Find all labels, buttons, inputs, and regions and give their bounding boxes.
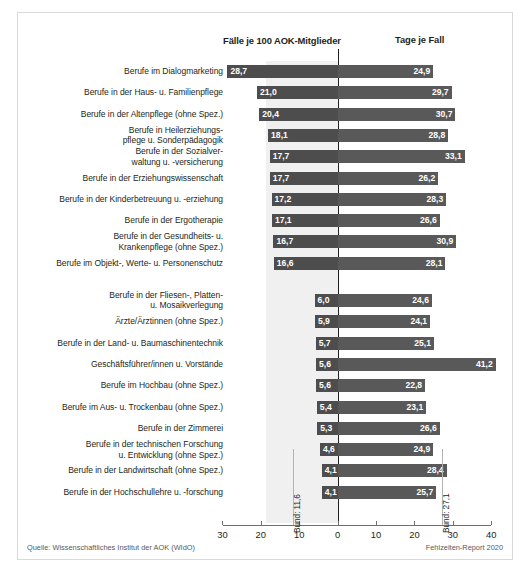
bar-value-faelle: 16,7 — [276, 235, 293, 248]
bar-tage: 41,2 — [338, 358, 496, 371]
bar-value-faelle: 5,6 — [319, 379, 331, 392]
bar-value-faelle: 18,1 — [271, 129, 288, 142]
bar-faelle: 4,6 — [320, 443, 338, 456]
bar-value-faelle: 5,9 — [318, 315, 330, 328]
axis-tick-label: 10 — [361, 529, 391, 540]
category-label: Berufe in der Land- u. Baumaschinentechn… — [18, 338, 223, 348]
bar-faelle: 17,1 — [272, 214, 338, 227]
bar-faelle: 5,7 — [316, 337, 338, 350]
axis-tick-label: 20 — [246, 529, 276, 540]
bar-tage: 30,7 — [338, 108, 456, 121]
bar-faelle: 17,2 — [272, 193, 338, 206]
chart-row: Berufe in der Haus- u. Familienpflege21,… — [18, 85, 514, 106]
axis-tick — [491, 521, 492, 525]
bar-value-tage: 29,7 — [432, 86, 449, 99]
bar-value-faelle: 17,2 — [275, 193, 292, 206]
bar-value-tage: 24,6 — [412, 294, 429, 307]
chart-row: Ärzte/Ärztinnen (ohne Spez.)5,924,1 — [18, 314, 514, 335]
chart-row: Geschäftsführer/innen u. Vorstände5,641,… — [18, 357, 514, 378]
bar-value-faelle: 28,7 — [230, 65, 247, 78]
source-note: Quelle: Wissenschaftliches Institut der … — [27, 543, 195, 552]
bar-tage: 24,9 — [338, 443, 434, 456]
axis-tick-label: 30 — [207, 529, 237, 540]
chart-row: Berufe in der Hochschullehre u. -forschu… — [18, 485, 514, 506]
bar-faelle: 4,1 — [322, 486, 338, 499]
category-label: Ärzte/Ärztinnen (ohne Spez.) — [18, 316, 223, 326]
bar-faelle: 17,7 — [270, 172, 338, 185]
bar-value-faelle: 4,6 — [323, 443, 335, 456]
category-label: Berufe in der technischen Forschung u. E… — [18, 439, 223, 460]
bar-value-tage: 23,1 — [407, 401, 424, 414]
chart-row: Berufe in der Fliesen-, Platten- u. Mosa… — [18, 293, 514, 314]
bar-value-faelle: 4,1 — [325, 464, 337, 477]
category-label: Berufe im Dialogmarketing — [18, 66, 223, 76]
column-header-faelle: Fälle je 100 AOK-Mitglieder — [223, 35, 341, 46]
bar-tage: 24,9 — [338, 65, 434, 78]
category-label: Berufe in der Altenpflege (ohne Spez.) — [18, 109, 223, 119]
category-label: Berufe in der Fliesen-, Platten- u. Mosa… — [18, 290, 223, 311]
bar-faelle: 17,7 — [270, 150, 338, 163]
category-label: Berufe in Heilerziehungs- pflege u. Sond… — [18, 125, 223, 146]
bar-value-tage: 28,1 — [426, 257, 443, 270]
bar-tage: 22,8 — [338, 379, 426, 392]
bar-faelle: 5,6 — [316, 379, 338, 392]
category-label: Geschäftsführer/innen u. Vorstände — [18, 359, 223, 369]
category-label: Berufe in der Ergotherapie — [18, 215, 223, 225]
chart-row: Berufe im Aus- u. Trockenbau (ohne Spez.… — [18, 400, 514, 421]
bar-value-faelle: 5,3 — [320, 422, 332, 435]
chart-row: Berufe in der Erziehungswissenschaft17,7… — [18, 171, 514, 192]
bar-tage: 25,7 — [338, 486, 437, 499]
bar-value-tage: 24,1 — [410, 315, 427, 328]
bar-faelle: 5,6 — [316, 358, 338, 371]
bar-value-faelle: 20,4 — [262, 108, 279, 121]
bar-faelle: 20,4 — [259, 108, 337, 121]
bar-tage: 25,1 — [338, 337, 434, 350]
axis-tick — [261, 521, 262, 525]
axis-tick — [453, 521, 454, 525]
chart-row: Berufe in der Land- u. Baumaschinentechn… — [18, 336, 514, 357]
bar-faelle: 5,4 — [317, 401, 338, 414]
bar-value-tage: 25,7 — [417, 486, 434, 499]
bar-tage: 28,1 — [338, 257, 446, 270]
category-label: Berufe im Aus- u. Trockenbau (ohne Spez.… — [18, 402, 223, 412]
reference-label-right: Bund: 27,1 — [441, 493, 451, 533]
category-label: Berufe in der Hochschullehre u. -forschu… — [18, 487, 223, 497]
bar-tage: 28,3 — [338, 193, 447, 206]
bar-value-tage: 28,3 — [427, 193, 444, 206]
column-header-tage: Tage je Fall — [395, 34, 444, 45]
axis-tick — [222, 521, 223, 525]
bar-value-faelle: 5,7 — [319, 337, 331, 350]
axis-tick-label: 0 — [323, 529, 353, 540]
axis-tick — [414, 521, 415, 525]
bar-faelle: 18,1 — [268, 129, 338, 142]
bar-tage: 26,6 — [338, 422, 440, 435]
bar-tage: 30,9 — [338, 235, 457, 248]
bar-tage: 23,1 — [338, 401, 427, 414]
bar-tage: 26,2 — [338, 172, 439, 185]
category-label: Berufe in der Landwirtschaft (ohne Spez.… — [18, 465, 223, 475]
bar-tage: 28,8 — [338, 129, 449, 142]
bar-value-faelle: 21,0 — [260, 86, 277, 99]
bar-faelle: 5,9 — [315, 315, 338, 328]
bar-tage: 28,4 — [338, 464, 447, 477]
chart-row: Berufe in der Gesundheits- u. Krankenpfl… — [18, 234, 514, 255]
bar-value-tage: 28,8 — [428, 129, 445, 142]
chart-row: Berufe in der Sozialver- waltung u. -ver… — [18, 149, 514, 170]
bar-faelle: 21,0 — [257, 86, 338, 99]
bar-value-faelle: 16,6 — [277, 257, 294, 270]
bar-faelle: 4,1 — [322, 464, 338, 477]
bar-value-tage: 24,9 — [413, 65, 430, 78]
bar-faelle: 16,7 — [273, 235, 337, 248]
bar-value-tage: 30,9 — [437, 235, 454, 248]
bar-value-faelle: 5,6 — [319, 358, 331, 371]
category-label: Berufe in der Zimmerei — [18, 423, 223, 433]
chart-row: Berufe in der Landwirtschaft (ohne Spez.… — [18, 463, 514, 484]
category-label: Berufe im Objekt-, Werte- u. Personensch… — [18, 258, 223, 268]
category-label: Berufe in der Kinderbetreuung u. -erzieh… — [18, 194, 223, 204]
bar-value-tage: 41,2 — [476, 358, 493, 371]
bar-tage: 24,6 — [338, 294, 432, 307]
report-note: Fehlzeiten-Report 2020 — [426, 543, 503, 552]
axis-tick-label: 20 — [399, 529, 429, 540]
chart-frame: Fälle je 100 AOK-Mitglieder Tage je Fall… — [17, 12, 513, 560]
chart-row: Berufe im Dialogmarketing28,724,9 — [18, 64, 514, 85]
